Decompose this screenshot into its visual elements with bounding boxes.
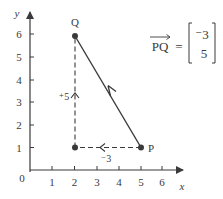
vector-equation: PQ = ⁻3 5 bbox=[150, 23, 215, 63]
point-q-label: Q bbox=[71, 16, 79, 28]
vector-name: PQ bbox=[152, 39, 169, 54]
axes: 1 2 3 4 5 6 1 2 3 4 5 6 0 x y bbox=[14, 7, 185, 192]
origin-label: 0 bbox=[19, 172, 25, 184]
x-tick-label-1: 1 bbox=[49, 176, 55, 188]
x-tick-label-4: 4 bbox=[116, 176, 122, 188]
x-axis-label: x bbox=[179, 180, 185, 192]
horizontal-component-label: ⁻3 bbox=[101, 153, 111, 164]
x-tick-label-5: 5 bbox=[138, 176, 144, 188]
y-tick-label-6: 6 bbox=[16, 28, 22, 40]
component-paths: ⁻3 ⁺5 bbox=[59, 36, 141, 164]
vector-diagram: 1 2 3 4 5 6 1 2 3 4 5 6 0 x y ⁻3 ⁺5 bbox=[0, 0, 223, 199]
y-tick-label-5: 5 bbox=[16, 51, 22, 63]
vector-top-value: ⁻3 bbox=[195, 27, 208, 42]
y-tick-label-4: 4 bbox=[16, 74, 22, 86]
x-tick-label-2: 2 bbox=[72, 176, 78, 188]
vector-bottom-value: 5 bbox=[201, 46, 208, 61]
x-tick-label-6: 6 bbox=[159, 176, 165, 188]
vector-pq-line bbox=[75, 36, 141, 148]
x-tick-label-3: 3 bbox=[94, 176, 100, 188]
y-tick-label-2: 2 bbox=[16, 119, 22, 131]
vertical-component-label: ⁺5 bbox=[59, 91, 69, 102]
point-q bbox=[72, 33, 78, 39]
y-tick-label-1: 1 bbox=[16, 142, 22, 154]
equals-sign: = bbox=[175, 39, 182, 54]
point-p-label: P bbox=[148, 142, 154, 154]
y-tick-label-3: 3 bbox=[16, 96, 22, 108]
left-bracket bbox=[189, 23, 192, 63]
vector-pq bbox=[75, 36, 141, 148]
points: Q P bbox=[71, 16, 154, 154]
right-bracket bbox=[212, 23, 215, 63]
point-corner bbox=[72, 145, 78, 151]
y-axis-label: y bbox=[14, 7, 20, 19]
point-p bbox=[138, 145, 144, 151]
